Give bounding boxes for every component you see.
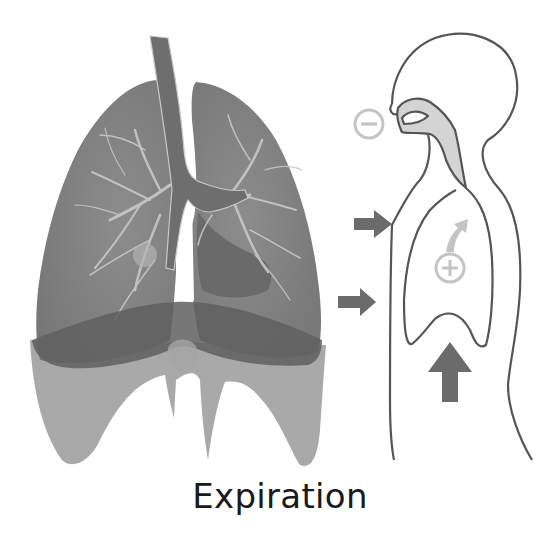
chest-arrow-lower-icon (338, 288, 376, 316)
airflow-arrow-icon (446, 219, 468, 252)
minus-pressure-symbol (355, 110, 383, 138)
plus-pressure-symbol (436, 254, 464, 282)
airway (397, 99, 466, 188)
lungs-illustration (30, 36, 326, 466)
body-profile (390, 34, 532, 460)
expiration-diagram (0, 0, 560, 550)
diaphragm-arrow-icon (428, 342, 472, 402)
face-outline (390, 104, 430, 460)
diagram-title: Expiration (0, 476, 560, 516)
chest-arrow-upper-icon (354, 210, 392, 238)
